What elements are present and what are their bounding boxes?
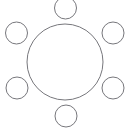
diagram-canvas [0,0,130,135]
satellite-lower-left-circle[interactable] [6,77,28,99]
satellite-top-circle[interactable] [55,0,77,19]
satellite-bottom-circle[interactable] [55,105,77,127]
center-circle[interactable] [27,24,103,100]
satellite-lower-right-circle[interactable] [102,77,124,99]
radial-circle-diagram [0,0,130,135]
satellite-upper-left-circle[interactable] [6,22,28,44]
satellite-circle-group [6,0,125,127]
center-circle-group [27,24,103,100]
satellite-upper-right-circle[interactable] [102,22,124,44]
